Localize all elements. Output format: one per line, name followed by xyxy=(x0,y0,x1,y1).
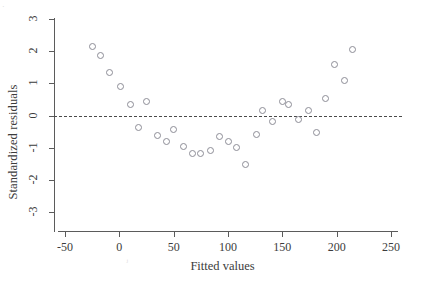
x-axis-title: Fitted values xyxy=(54,259,391,274)
y-tick-label: 3 xyxy=(26,6,41,32)
x-tick-mark xyxy=(337,232,338,237)
x-tick-label: 50 xyxy=(154,240,194,255)
data-point xyxy=(154,132,161,139)
data-point xyxy=(163,138,170,145)
x-tick-mark xyxy=(282,232,283,237)
x-tick-label: 200 xyxy=(317,240,357,255)
x-tick-label: 250 xyxy=(371,240,411,255)
page-speck-bottom: ⱼ xyxy=(126,255,128,264)
y-tick-label: -1 xyxy=(26,134,41,160)
y-tick-label: -2 xyxy=(26,166,41,192)
residuals-vs-fitted-plot: Standardized residuals Fitted values -3-… xyxy=(0,0,423,284)
y-tick-label: 2 xyxy=(26,38,41,64)
data-point xyxy=(180,143,187,150)
data-point xyxy=(233,144,240,151)
x-tick-mark xyxy=(391,232,392,237)
x-tick-mark xyxy=(174,232,175,237)
data-point xyxy=(225,138,232,145)
x-tick-label: 0 xyxy=(99,240,139,255)
x-tick-label: -50 xyxy=(45,240,85,255)
data-point xyxy=(295,116,302,123)
data-point xyxy=(117,83,124,90)
data-point xyxy=(313,129,320,136)
data-point xyxy=(331,61,338,68)
data-point xyxy=(216,133,223,140)
y-tick-label: -3 xyxy=(26,199,41,225)
data-point xyxy=(253,131,260,138)
page-speck-top-left: · xyxy=(2,2,5,11)
x-tick-mark xyxy=(228,232,229,237)
data-point xyxy=(189,150,196,157)
data-point xyxy=(127,101,134,108)
x-tick-mark xyxy=(119,232,120,237)
y-tick-label: 1 xyxy=(26,70,41,96)
x-tick-label: 100 xyxy=(208,240,248,255)
x-tick-mark xyxy=(65,232,66,237)
y-axis-title: Standardized residuals xyxy=(0,0,26,284)
y-tick-label: 0 xyxy=(26,102,41,128)
data-point xyxy=(341,77,348,84)
data-point xyxy=(305,107,312,114)
x-tick-label: 150 xyxy=(262,240,302,255)
